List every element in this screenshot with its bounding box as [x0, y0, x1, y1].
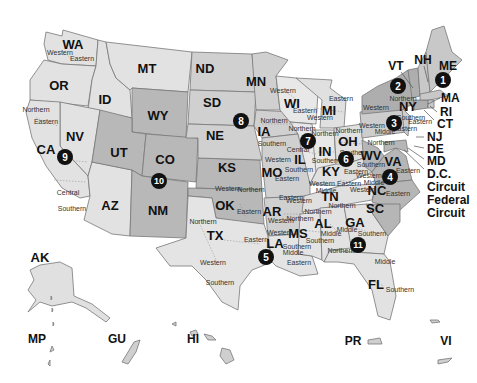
district-tx-western: Western	[200, 259, 226, 266]
label-wy: WY	[148, 108, 169, 123]
district-ms-northern: Northern	[286, 215, 313, 222]
district-ca-northern: Northern	[22, 106, 49, 113]
district-ca-eastern: Eastern	[34, 118, 58, 125]
label-nh: NH	[414, 53, 431, 67]
district-va-eastern: Eastern	[396, 167, 420, 174]
district-ca-southern: Southern	[58, 205, 87, 212]
label-ks: KS	[218, 160, 236, 175]
district-ia-northern: Northern	[260, 117, 287, 124]
circuit-badge-3[interactable]: 3	[386, 115, 402, 131]
district-ky-eastern: Eastern	[344, 168, 368, 175]
district-ar-eastern: Eastern	[279, 194, 303, 201]
district-al-northern: Northern	[304, 208, 331, 215]
label-vi: VI	[440, 334, 451, 348]
district-la-eastern: Eastern	[287, 259, 311, 266]
district-ga-southern: Southern	[358, 230, 387, 237]
label-federal: Federal	[427, 193, 470, 207]
label-ut: UT	[110, 145, 127, 160]
label-hi: HI	[187, 332, 199, 346]
circuit-badge-10[interactable]: 10	[151, 173, 167, 189]
circuit-badge-5[interactable]: 5	[258, 249, 274, 265]
district-ny-western: Western	[363, 104, 389, 111]
svg-text:7: 7	[305, 136, 311, 147]
label-co: CO	[155, 152, 175, 167]
label-ky: KY	[322, 164, 340, 179]
svg-text:2: 2	[395, 81, 401, 92]
district-tn-eastern: Eastern	[337, 180, 361, 187]
label-mt: MT	[138, 61, 157, 76]
district-la-middle: Middle	[283, 249, 304, 256]
district-tn-middle: Middle	[316, 187, 337, 194]
circuit-badge-9[interactable]: 9	[57, 149, 73, 165]
label-me: ME	[439, 59, 457, 73]
svg-text:4: 4	[387, 172, 393, 183]
label-sc: SC	[366, 201, 385, 216]
district-tx-eastern: Eastern	[244, 236, 268, 243]
label-nv: NV	[66, 129, 84, 144]
district-fl-middle: Middle	[375, 258, 396, 265]
district-tx-southern: Southern	[206, 279, 235, 286]
circuit-badge-2[interactable]: 2	[390, 78, 406, 94]
district-ga-middle: Middle	[337, 226, 358, 233]
label-sd: SD	[203, 95, 221, 110]
label-gu: GU	[108, 332, 126, 346]
district-ok-eastern: Eastern	[237, 208, 261, 215]
label-al: AL	[314, 216, 331, 231]
district-la-western: Western	[267, 229, 293, 236]
svg-text:11: 11	[353, 240, 363, 250]
district-ga-northern: Northern	[328, 202, 355, 209]
label-oh: OH	[338, 134, 358, 149]
district-ky-western: Western	[309, 180, 335, 187]
label-ma: MA	[441, 91, 460, 105]
svg-text:1: 1	[440, 75, 446, 86]
label-nd: ND	[196, 61, 215, 76]
label-ca: CA	[37, 142, 56, 157]
label-or: OR	[49, 78, 69, 93]
svg-text:6: 6	[343, 154, 349, 165]
svg-text:8: 8	[238, 116, 244, 127]
district-mo-western: Western	[265, 156, 291, 163]
district-il-southern: Southern	[285, 166, 314, 173]
district-ny-eastern: Eastern	[408, 118, 432, 125]
district-in-southern: Southern	[312, 157, 341, 164]
label-il: IL	[294, 152, 306, 167]
svg-text:9: 9	[62, 152, 68, 163]
district-ms-southern: Southern	[283, 243, 312, 250]
district-fl-southern: Southern	[386, 286, 415, 293]
district-wi-western: Western	[270, 87, 296, 94]
label-mp: MP	[28, 332, 46, 346]
svg-text:5: 5	[263, 252, 269, 263]
label-az: AZ	[101, 198, 118, 213]
label-ne: NE	[206, 128, 224, 143]
district-nc-western: Western	[350, 186, 376, 193]
label-id: ID	[99, 92, 112, 107]
circuit-badge-8[interactable]: 8	[233, 113, 249, 129]
district-mo-eastern: Eastern	[275, 175, 299, 182]
label-dc: D.C.	[427, 167, 451, 181]
label-tx: TX	[207, 228, 224, 243]
district-mi-western: Western	[307, 114, 333, 121]
label-ia: IA	[258, 124, 272, 139]
circuit-badge-7[interactable]: 7	[300, 133, 316, 149]
circuit-badge-11[interactable]: 11	[350, 237, 366, 253]
circuit-badge-6[interactable]: 6	[338, 151, 354, 167]
district-ia-southern: Southern	[258, 140, 287, 147]
label-nm: NM	[148, 203, 168, 218]
label-md: MD	[427, 154, 446, 168]
label-mn: MN	[246, 74, 266, 89]
circuit-map: WA OR ID MT WY NV CA UT CO AZ NM ND SD N…	[0, 0, 477, 383]
label-ak: AK	[31, 250, 50, 265]
label-ct: CT	[437, 117, 454, 131]
label-vt: VT	[388, 59, 404, 73]
svg-text:3: 3	[391, 118, 397, 129]
district-wv-southern: Southern	[357, 161, 386, 168]
circuit-badge-4[interactable]: 4	[382, 169, 398, 185]
district-ny-northern: Northern	[389, 95, 416, 102]
label-la: LA	[266, 236, 284, 251]
district-wi-eastern: Eastern	[293, 107, 317, 114]
district-mi-eastern: Eastern	[329, 95, 353, 102]
circuit-badge-1[interactable]: 1	[435, 72, 451, 88]
district-nc-middle: Middle	[364, 179, 385, 186]
label-federal-circuit: Circuit	[427, 206, 465, 220]
label-pr: PR	[345, 334, 362, 348]
